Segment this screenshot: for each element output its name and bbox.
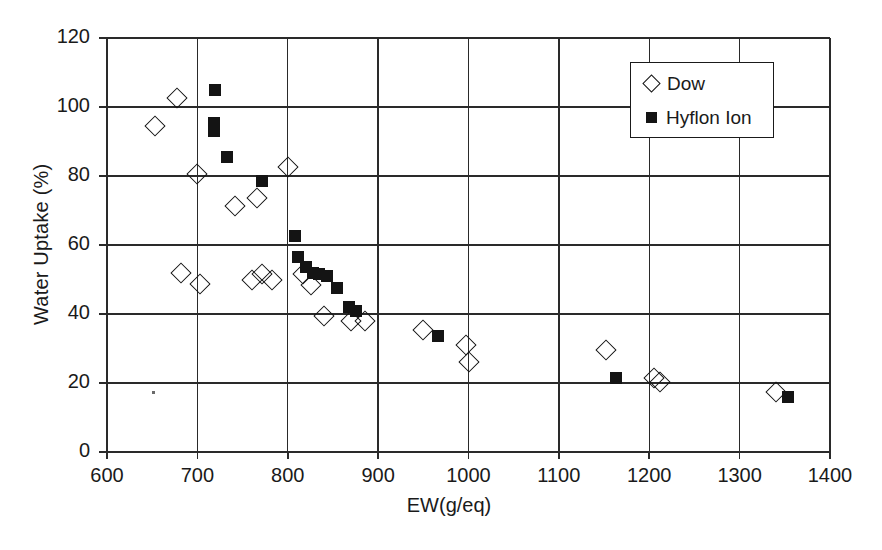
x-tick-label: 900	[338, 464, 418, 487]
data-point-hyflon-ion	[208, 125, 220, 137]
legend: Dow Hyflon Ion	[630, 62, 774, 138]
y-tick-label: 0	[2, 439, 90, 462]
data-point-hyflon-ion	[432, 330, 444, 342]
y-tick-label: 120	[2, 25, 90, 48]
y-tick-label: 20	[2, 370, 90, 393]
y-tick-label: 40	[2, 301, 90, 324]
data-point-hyflon-ion	[221, 151, 233, 163]
y-tick-label: 60	[2, 232, 90, 255]
data-point-hyflon-ion	[321, 270, 333, 282]
x-tick-label: 700	[157, 464, 237, 487]
data-point-hyflon-ion	[256, 175, 268, 187]
legend-item-hyflon-ion[interactable]: Hyflon Ion	[646, 108, 752, 127]
x-tick-label: 1200	[609, 464, 689, 487]
data-point-hyflon-ion	[331, 282, 343, 294]
data-point-hyflon-ion	[782, 391, 794, 403]
scatter-chart-figure: Water Uptake (%) EW(g/eq) Dow Hyflon Ion…	[0, 0, 882, 550]
scan-artifact-speck	[152, 391, 155, 394]
x-tick-label: 1400	[790, 464, 870, 487]
x-tick-label: 1000	[429, 464, 509, 487]
y-tick-label: 100	[2, 94, 90, 117]
data-point-hyflon-ion	[289, 230, 301, 242]
legend-item-dow[interactable]: Dow	[645, 74, 705, 93]
open-diamond-icon	[642, 74, 660, 92]
data-point-hyflon-ion	[610, 372, 622, 384]
x-tick-label: 800	[248, 464, 328, 487]
filled-square-icon	[646, 112, 657, 123]
x-tick-label: 600	[67, 464, 147, 487]
data-point-hyflon-ion	[350, 305, 362, 317]
x-tick-label: 1300	[700, 464, 780, 487]
legend-label-dow: Dow	[667, 74, 705, 93]
x-tick-label: 1100	[519, 464, 599, 487]
legend-label-hyflon-ion: Hyflon Ion	[666, 108, 752, 127]
data-point-hyflon-ion	[209, 84, 221, 96]
y-tick-label: 80	[2, 163, 90, 186]
